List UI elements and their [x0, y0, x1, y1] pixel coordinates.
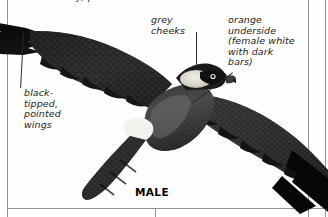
- label-orange-underside: orange underside (female white with dark…: [228, 15, 320, 68]
- label-black-tipped-wings: black- tipped, pointed wings: [24, 88, 61, 130]
- caption-male: MALE: [135, 186, 169, 198]
- label-grey-cheeks: grey cheeks: [151, 15, 185, 36]
- leader-grey-cheeks: [196, 32, 197, 67]
- figure-page: y, pointed: [0, 0, 328, 217]
